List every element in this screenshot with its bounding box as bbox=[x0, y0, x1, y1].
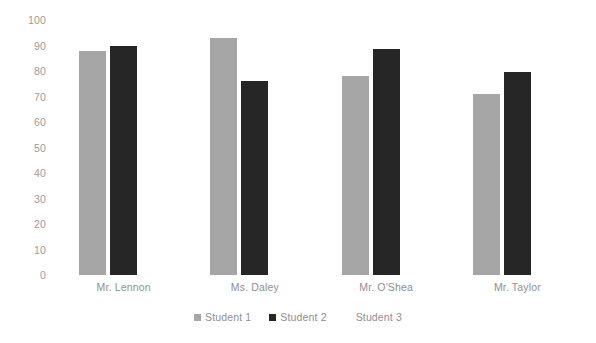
legend-swatch-icon bbox=[269, 314, 276, 321]
y-axis: 0102030405060708090100 bbox=[0, 0, 58, 295]
legend-item[interactable]: Student 2 bbox=[269, 311, 326, 323]
legend-label: Student 3 bbox=[356, 311, 402, 323]
y-axis-tick-label: 70 bbox=[34, 91, 46, 103]
bar-1[interactable] bbox=[79, 51, 106, 275]
bar-group bbox=[79, 20, 168, 275]
y-axis-tick-label: 60 bbox=[34, 116, 46, 128]
chart-legend: Student 1Student 2Student 3 bbox=[0, 309, 596, 325]
bar-2[interactable] bbox=[110, 46, 137, 276]
bar-1[interactable] bbox=[210, 38, 237, 275]
bar-group bbox=[210, 20, 299, 275]
y-axis-tick-label: 100 bbox=[28, 14, 46, 26]
legend-label: Student 1 bbox=[205, 311, 251, 323]
y-axis-tick-label: 10 bbox=[34, 244, 46, 256]
x-axis-category-labels: Mr. LennonMs. DaleyMr. O'SheaMr. Taylor bbox=[58, 281, 583, 299]
y-axis-tick-label: 30 bbox=[34, 193, 46, 205]
bar-group bbox=[342, 20, 431, 275]
y-axis-tick-label: 90 bbox=[34, 40, 46, 52]
bar-chart: 0102030405060708090100 Mr. LennonMs. Dal… bbox=[0, 0, 596, 343]
bar-1[interactable] bbox=[342, 76, 369, 275]
y-axis-tick-label: 20 bbox=[34, 218, 46, 230]
legend-label: Student 2 bbox=[280, 311, 326, 323]
y-axis-tick-label: 40 bbox=[34, 167, 46, 179]
x-axis-label: Mr. Taylor bbox=[494, 281, 541, 293]
legend-swatch-icon bbox=[194, 314, 201, 321]
y-axis-tick-label: 0 bbox=[40, 269, 46, 281]
bar-2[interactable] bbox=[373, 49, 400, 275]
plot-area bbox=[58, 20, 583, 275]
x-axis-label: Mr. O'Shea bbox=[359, 281, 413, 293]
legend-swatch-icon bbox=[345, 314, 352, 321]
x-axis-label: Mr. Lennon bbox=[97, 281, 151, 293]
x-axis-label: Ms. Daley bbox=[231, 281, 279, 293]
bar-2[interactable] bbox=[504, 72, 531, 275]
bar-group bbox=[473, 20, 562, 275]
bar-1[interactable] bbox=[473, 94, 500, 275]
bar-2[interactable] bbox=[241, 81, 268, 275]
legend-item[interactable]: Student 1 bbox=[194, 311, 251, 323]
y-axis-tick-label: 80 bbox=[34, 65, 46, 77]
legend-item[interactable]: Student 3 bbox=[345, 311, 402, 323]
y-axis-tick-label: 50 bbox=[34, 142, 46, 154]
